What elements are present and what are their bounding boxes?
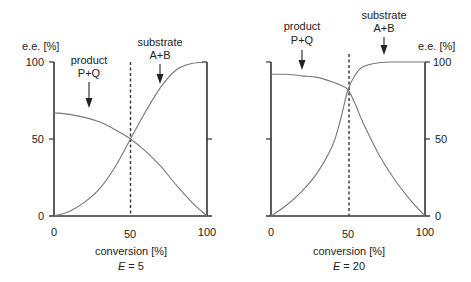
y-tick-label-50: 50 [435,133,447,145]
y-tick-label-50: 50 [32,133,44,145]
product-label: product [71,54,108,66]
x-axis-label: conversion [%] [313,245,385,257]
x-tick-label-100: 100 [198,226,216,238]
x-tick-label-50: 50 [124,228,136,240]
y-tick-label-100: 100 [26,56,44,68]
substrate-label: substrate [361,9,406,21]
x-tick-label-0: 0 [268,226,274,238]
product-arrow-icon [299,60,306,70]
y-tick-label-0: 0 [435,210,441,222]
plot-e20: e.e. [%] 100 50 0 0 50 100 conversion [%… [266,9,455,272]
enantioselectivity-label: E= 20 [333,260,365,272]
x-axis-label: conversion [%] [95,245,167,257]
substrate-arrow-icon [381,45,388,55]
y-tick-label-0: 0 [38,210,44,222]
substrate-formula: A+B [373,22,394,34]
substrate-curve [271,62,425,216]
x-tick-label-50: 50 [342,228,354,240]
substrate-label: substrate [137,36,182,48]
product-arrow-icon [86,98,93,108]
chart-canvas: e.e. [%] 100 50 0 0 50 100 conversion [%… [0,0,471,282]
y-tick-label-100: 100 [433,56,451,68]
y-axis-label: e.e. [%] [22,40,59,52]
y-axis-label: e.e. [%] [418,40,455,52]
product-curve [271,74,425,216]
substrate-arrow-icon [157,74,164,84]
plot-e5: e.e. [%] 100 50 0 0 50 100 conversion [%… [22,36,216,272]
product-formula: P+Q [291,34,314,46]
product-formula: P+Q [78,67,101,79]
x-tick-label-100: 100 [416,226,434,238]
enantioselectivity-label: E= 5 [118,260,144,272]
substrate-formula: A+B [149,49,170,61]
product-label: product [284,20,321,32]
x-tick-label-0: 0 [51,226,57,238]
